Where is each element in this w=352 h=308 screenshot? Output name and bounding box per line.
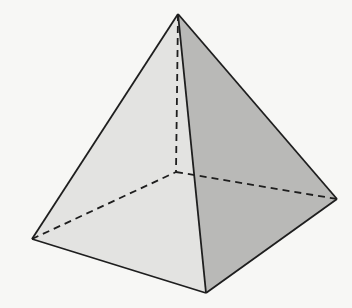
pyramid-diagram <box>0 0 352 308</box>
